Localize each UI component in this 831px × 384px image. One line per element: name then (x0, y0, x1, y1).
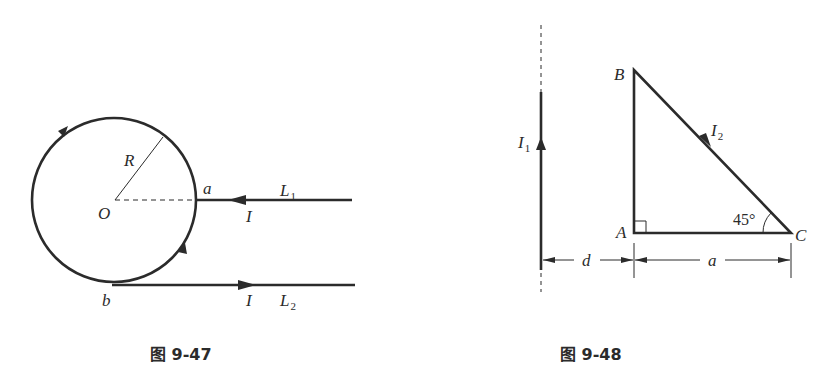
label-side-a: a (708, 251, 717, 270)
arrow-right-icon (238, 280, 256, 290)
arrow-icon (58, 126, 68, 137)
right-angle-marker (634, 221, 646, 233)
label-b: b (102, 291, 111, 310)
caption-9-47: 图 9-47 (150, 345, 212, 364)
radius-line (115, 137, 163, 200)
arrow-right-icon (778, 257, 790, 263)
label-angle: 45° (733, 211, 755, 228)
figure-9-48: B A C 45° I1 I2 d a 图 9-48 (517, 25, 807, 364)
label-l1: L1 (279, 181, 296, 202)
label-current-bottom: I (245, 291, 253, 310)
label-l2: L2 (279, 291, 296, 312)
arrow-up-icon (536, 137, 546, 150)
arrow-left-icon (635, 257, 647, 263)
figure-9-47: R O a b I I L1 L2 图 9-47 (32, 118, 355, 364)
caption-9-48: 图 9-48 (560, 345, 622, 364)
label-c: C (795, 226, 807, 245)
label-current-top: I (245, 207, 253, 226)
label-a: A (615, 223, 627, 242)
label-d: d (582, 251, 591, 270)
label-r: R (123, 151, 135, 170)
diagram-canvas: R O a b I I L1 L2 图 9-47 (0, 0, 831, 384)
label-i1: I1 (517, 133, 530, 154)
arrow-left-icon (543, 257, 555, 263)
angle-arc (763, 213, 771, 233)
arrow-left-icon (228, 195, 246, 205)
label-b: B (614, 65, 625, 84)
arrow-right-icon (621, 257, 633, 263)
label-a: a (203, 179, 212, 198)
label-i2: I2 (710, 121, 723, 142)
triangle-abc (634, 70, 791, 233)
label-o: O (98, 204, 110, 223)
